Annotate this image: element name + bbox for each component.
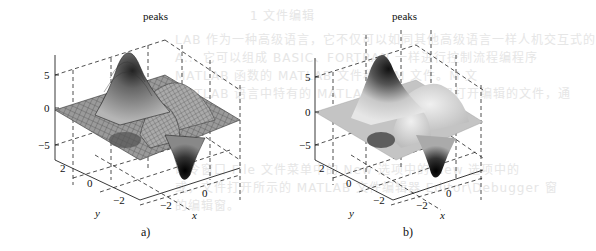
y-axis-label: y bbox=[95, 208, 100, 219]
y-tick-label: −2 bbox=[373, 195, 385, 206]
surface-plot-b bbox=[241, 0, 483, 251]
figure-a: peaks 5 0 −5 2 0 −2 y −2 0 x a) bbox=[0, 0, 241, 251]
figure-caption: b) bbox=[403, 227, 413, 238]
y-tick-label: 2 bbox=[319, 163, 325, 174]
y-axis-label: y bbox=[349, 208, 354, 219]
y-tick-label: 0 bbox=[346, 178, 352, 189]
plot-title: peaks bbox=[143, 11, 168, 22]
z-tick-label: 5 bbox=[305, 72, 311, 83]
y-tick-label: 0 bbox=[87, 178, 93, 189]
y-tick-label: −2 bbox=[113, 195, 125, 206]
x-tick-label: −2 bbox=[160, 200, 172, 211]
z-tick-label: 0 bbox=[44, 103, 50, 114]
plot-title: peaks bbox=[392, 11, 417, 22]
x-tick-label: 0 bbox=[446, 188, 452, 199]
z-tick-label: −5 bbox=[38, 140, 50, 151]
x-tick-label: −2 bbox=[416, 200, 428, 211]
main-trough bbox=[165, 135, 205, 180]
x-tick-label: 0 bbox=[202, 188, 208, 199]
x-axis-label: x bbox=[440, 210, 445, 221]
figure-caption: a) bbox=[141, 227, 150, 238]
y-tick-label: 2 bbox=[60, 163, 66, 174]
surface-plot-a bbox=[0, 0, 241, 251]
z-tick-label: 0 bbox=[305, 107, 311, 118]
x-axis-label: x bbox=[192, 210, 197, 221]
z-tick-label: 5 bbox=[44, 70, 50, 81]
z-tick-label: −5 bbox=[299, 140, 311, 151]
figure-b: peaks 5 0 −5 2 0 −2 y −2 0 x b) bbox=[241, 0, 483, 251]
main-trough bbox=[416, 135, 456, 178]
